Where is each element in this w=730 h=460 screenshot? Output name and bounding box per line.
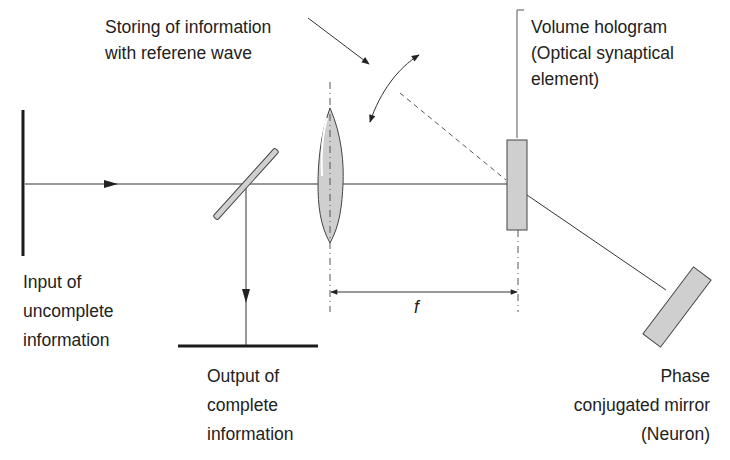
mirror-label: Phase conjugated mirror (Neuron) (574, 362, 710, 449)
hologram-label: Volume hologram (Optical synaptical elem… (531, 14, 674, 92)
output-direction-arrow (242, 289, 250, 303)
phase-conjugated-mirror (643, 267, 711, 347)
beam-to-mirror (527, 195, 666, 290)
storing-label-line: Storing of information (105, 14, 271, 40)
rotation-arrow (370, 55, 419, 122)
hologram-leader-line (517, 10, 524, 138)
input-label-line: uncomplete (23, 297, 113, 326)
output-label-line: Output of (207, 362, 294, 391)
volume-hologram (507, 140, 527, 230)
storing-pointer-arrow (308, 18, 369, 64)
hologram-label-line: (Optical synaptical (531, 40, 674, 66)
beam-direction-arrow (104, 180, 118, 188)
reference-wave (400, 93, 506, 180)
output-label-line: information (207, 420, 294, 449)
mirror-label-line: Phase (574, 362, 710, 391)
input-label-line: Input of (23, 268, 113, 297)
focal-length-label: f (414, 294, 419, 320)
mirror-label-line: (Neuron) (574, 420, 710, 449)
storing-label-line: with referene wave (105, 40, 271, 66)
storing-label: Storing of information with referene wav… (105, 14, 271, 66)
hologram-label-line: Volume hologram (531, 14, 674, 40)
hologram-label-line: element) (531, 66, 674, 92)
output-label-line: complete (207, 391, 294, 420)
mirror-label-line: conjugated mirror (574, 391, 710, 420)
output-label: Output of complete information (207, 362, 294, 449)
input-label: Input of uncomplete information (23, 268, 113, 355)
input-label-line: information (23, 326, 113, 355)
